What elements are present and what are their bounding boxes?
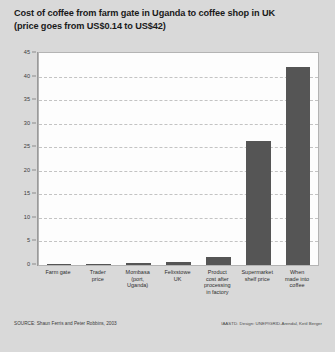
y-axis: 051015202530354045 [0, 46, 36, 272]
y-axis-tick-mark [32, 216, 36, 217]
y-axis-tick-mark [32, 169, 36, 170]
bar [126, 263, 151, 265]
x-axis-labels: Farm gateTrader priceMombasa (port, Ugan… [38, 269, 319, 309]
y-axis-tick-label: 35 [24, 96, 30, 102]
x-axis-label: When made into coffee [277, 269, 317, 289]
y-axis-tick-mark [32, 193, 36, 194]
y-axis-tick-label: 45 [24, 49, 30, 55]
x-axis-label: Trader price [78, 269, 118, 282]
x-axis-label: Supermarket shelf price [237, 269, 277, 282]
bar [47, 264, 72, 265]
y-axis-tick-mark [32, 99, 36, 100]
chart-title-line1: Cost of coffee from farm gate in Uganda … [14, 8, 275, 18]
x-axis-label: Mombasa (port, Uganda) [118, 269, 158, 289]
y-axis-tick-label: 30 [24, 120, 30, 126]
y-axis-tick-mark [32, 146, 36, 147]
bar [286, 67, 311, 265]
y-axis-tick-label: 15 [24, 190, 30, 196]
credit-note: IAASTD. Design: UNEP/GRID-Arendal, Ketil… [221, 321, 322, 326]
y-axis-tick-mark [32, 75, 36, 76]
y-axis-tick-label: 25 [24, 143, 30, 149]
y-axis-tick-label: 0 [27, 261, 30, 267]
x-axis-label: Product cost after processing in factory [197, 269, 237, 295]
bar-series [39, 53, 318, 265]
bar [166, 262, 191, 265]
y-axis-tick-label: 5 [27, 237, 30, 243]
bar [246, 141, 271, 265]
chart-title-line2: (price goes from US$0.14 to US$42) [14, 20, 324, 33]
y-axis-tick-label: 20 [24, 167, 30, 173]
y-axis-tick-label: 10 [24, 214, 30, 220]
source-note: SOURCE: Shaun Ferris and Peter Robbins, … [14, 321, 117, 326]
plot-area [38, 52, 319, 266]
y-axis-tick-label: 40 [24, 73, 30, 79]
x-axis-label: Felixstowe UK [158, 269, 198, 282]
bar [86, 264, 111, 265]
bar [206, 257, 231, 265]
chart-page: Cost of coffee from farm gate in Uganda … [0, 0, 335, 352]
chart-title: Cost of coffee from farm gate in Uganda … [14, 7, 324, 32]
y-axis-tick-mark [32, 122, 36, 123]
y-axis-tick-mark [32, 52, 36, 53]
y-axis-tick-mark [32, 264, 36, 265]
y-axis-tick-mark [32, 240, 36, 241]
x-axis-label: Farm gate [38, 269, 78, 276]
